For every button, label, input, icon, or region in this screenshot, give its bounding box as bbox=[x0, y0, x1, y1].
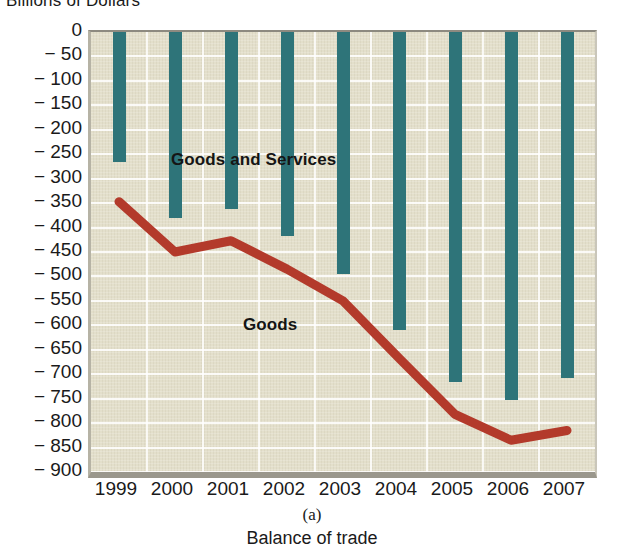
y-tick-label: − 450 bbox=[0, 239, 82, 261]
x-tick-label-2002: 2002 bbox=[263, 478, 305, 500]
goods-line-path bbox=[119, 202, 567, 441]
x-tick-label-2006: 2006 bbox=[487, 478, 529, 500]
y-tick-label: − 150 bbox=[0, 92, 82, 114]
y-tick-label: − 700 bbox=[0, 361, 82, 383]
y-tick-label: − 400 bbox=[0, 215, 82, 237]
y-tick-label: − 250 bbox=[0, 141, 82, 163]
x-axis: 199920002001200220032004200520062007 bbox=[88, 478, 592, 506]
y-tick-label: − 350 bbox=[0, 190, 82, 212]
y-tick-label: − 200 bbox=[0, 117, 82, 139]
x-tick-label-2004: 2004 bbox=[375, 478, 417, 500]
x-tick-label-2001: 2001 bbox=[207, 478, 249, 500]
y-tick-label: − 500 bbox=[0, 263, 82, 285]
y-tick-label: − 750 bbox=[0, 386, 82, 408]
y-tick-label: − 850 bbox=[0, 435, 82, 457]
y-tick-label: − 900 bbox=[0, 459, 82, 481]
y-tick-label: − 100 bbox=[0, 68, 82, 90]
y-tick-label: − 550 bbox=[0, 288, 82, 310]
goods-line-series bbox=[91, 32, 595, 472]
y-tick-label: − 50 bbox=[0, 43, 82, 65]
x-tick-label-1999: 1999 bbox=[95, 478, 137, 500]
annotation-goods-and-services: Goods and Services bbox=[171, 150, 336, 170]
y-tick-label: − 600 bbox=[0, 312, 82, 334]
x-tick-label-2000: 2000 bbox=[151, 478, 193, 500]
y-tick-label: − 800 bbox=[0, 410, 82, 432]
y-tick-label: 0 bbox=[0, 19, 82, 41]
y-axis: 0− 50− 100− 150− 200− 250− 300− 350− 400… bbox=[0, 30, 82, 470]
chart-axis-title: Billions of Dollars bbox=[6, 0, 140, 11]
annotation-goods: Goods bbox=[243, 315, 297, 335]
y-tick-label: − 650 bbox=[0, 337, 82, 359]
balance-of-trade-figure: Billions of Dollars 0− 50− 100− 150− 200… bbox=[0, 0, 624, 556]
caption-letter: (a) bbox=[0, 505, 624, 525]
plot-area: Goods and ServicesGoods bbox=[88, 30, 597, 478]
x-tick-label-2005: 2005 bbox=[431, 478, 473, 500]
x-tick-label-2003: 2003 bbox=[319, 478, 361, 500]
x-tick-label-2007: 2007 bbox=[543, 478, 585, 500]
y-tick-label: − 300 bbox=[0, 166, 82, 188]
caption-text: Balance of trade bbox=[0, 528, 624, 549]
